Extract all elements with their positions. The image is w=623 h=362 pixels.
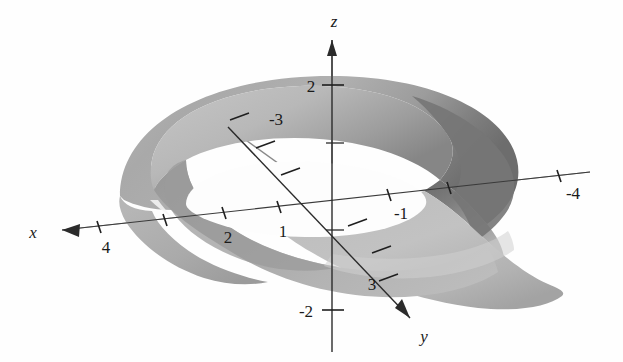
z-tick-label-neg2: -2 — [299, 302, 313, 321]
z-tick-label-2: 2 — [307, 77, 316, 96]
y-axis-arrowhead — [395, 299, 410, 318]
x-tick-label-4: 4 — [102, 238, 111, 257]
z-axis-label: z — [330, 12, 338, 31]
y-axis-label: y — [418, 327, 428, 346]
x-axis-arrowhead — [62, 224, 80, 237]
x-tick-label-1: 1 — [279, 222, 288, 241]
y-tick-neg2 — [256, 141, 275, 148]
figure-canvas: x y z 4 2 1 -1 -4 3 -3 2 -2 — [0, 0, 623, 362]
y-tick-label-3: 3 — [368, 275, 377, 294]
x-tick-label-2: 2 — [224, 228, 233, 247]
x-axis-label: x — [28, 223, 37, 242]
mobius-strip-figure: x y z 4 2 1 -1 -4 3 -3 2 -2 — [0, 0, 623, 362]
x-tick-4 — [97, 221, 101, 233]
y-tick-label-neg3: -3 — [269, 110, 283, 129]
z-axis-arrowhead — [327, 40, 337, 56]
x-tick-label-neg4: -4 — [566, 184, 581, 203]
x-tick-3 — [163, 214, 167, 226]
x-tick-label-neg1: -1 — [394, 204, 408, 223]
